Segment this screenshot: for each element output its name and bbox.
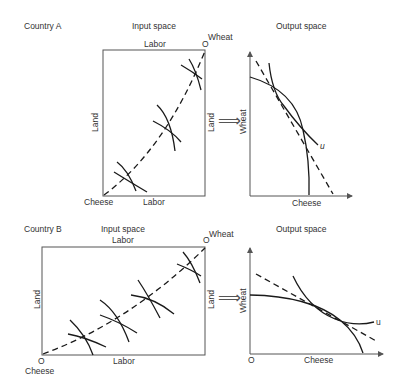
input-space-title-b: Input space bbox=[101, 224, 145, 234]
country-b-label: Country B bbox=[24, 224, 62, 234]
land-right-label-b: Land bbox=[206, 290, 216, 309]
origin-cheese-b: O bbox=[38, 356, 45, 366]
labor-bottom-label-a: Labor bbox=[143, 197, 165, 207]
isoquant-cheese-2-a bbox=[153, 121, 181, 142]
price-line-a bbox=[256, 61, 333, 194]
indifference-curve-a bbox=[269, 63, 318, 145]
labor-top-label-b: Labor bbox=[112, 235, 134, 245]
labor-top-label-a: Labor bbox=[144, 39, 166, 49]
cheese-axis-label-b: Cheese bbox=[304, 355, 334, 365]
contract-curve-b bbox=[43, 248, 205, 354]
land-right-label-a: Land bbox=[206, 113, 216, 132]
cheese-axis-label-a: Cheese bbox=[292, 198, 322, 208]
edgeworth-box-diagram: Country A Input space Labor O Wheat Land… bbox=[0, 0, 399, 389]
isoquant-wheat-1-a bbox=[117, 162, 136, 191]
wheat-axis-label-b: Wheat bbox=[238, 288, 248, 313]
origin-output-b: O bbox=[248, 355, 255, 365]
output-space-title-a: Output space bbox=[276, 21, 327, 31]
wheat-origin-label-b: Wheat bbox=[209, 229, 234, 239]
indifference-curve-b bbox=[293, 276, 374, 324]
labor-bottom-label-b: Labor bbox=[113, 356, 135, 366]
wheat-origin-label-a: Wheat bbox=[208, 32, 233, 42]
wheat-axis-label-a: Wheat bbox=[238, 109, 248, 134]
land-left-label-a: Land bbox=[90, 113, 100, 132]
output-space-title-b: Output space bbox=[276, 224, 327, 234]
panel-country-b: Country B Input space Labor O Wheat Land… bbox=[24, 224, 383, 376]
input-box-b bbox=[42, 247, 205, 355]
isoquant-cheese-2-b bbox=[100, 315, 137, 333]
panel-country-a: Country A Input space Labor O Wheat Land… bbox=[24, 21, 352, 208]
country-a-label: Country A bbox=[24, 21, 62, 31]
cheese-origin-label-a: Cheese bbox=[84, 197, 114, 207]
input-space-title-a: Input space bbox=[132, 21, 176, 31]
contract-curve-a bbox=[104, 51, 205, 195]
indifference-label-a: u bbox=[320, 141, 325, 151]
cheese-origin-label-b: Cheese bbox=[25, 366, 55, 376]
isoquant-wheat-3-b bbox=[138, 280, 160, 318]
land-left-label-b: Land bbox=[32, 290, 42, 309]
isoquant-cheese-1-a bbox=[114, 172, 147, 192]
indifference-label-b: u bbox=[376, 317, 381, 327]
ppf-curve-a bbox=[250, 77, 309, 195]
